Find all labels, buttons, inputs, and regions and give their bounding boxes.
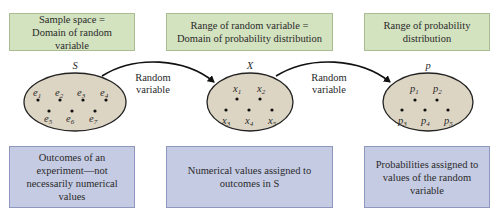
set-S-title: S xyxy=(72,60,78,71)
arrow-1-label-line2: variable xyxy=(136,84,170,95)
arrow-2-label-line2: variable xyxy=(312,84,346,95)
set-p-title: p xyxy=(424,60,430,71)
arrow-1-label-line1: Random xyxy=(135,72,171,83)
arrow-2-label-line1: Random xyxy=(311,72,347,83)
set-X-title: X xyxy=(246,60,254,71)
diagram-canvas: Random variable Random variable S e1 e2 … xyxy=(0,0,494,216)
set-S-ellipse xyxy=(24,73,126,131)
